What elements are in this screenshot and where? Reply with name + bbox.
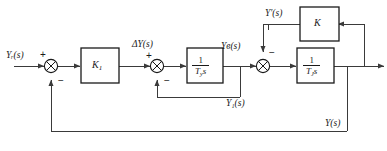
integrator-ty-denominator: Tys bbox=[192, 66, 209, 76]
block-integrator-ty-label: 1 Tys bbox=[192, 56, 209, 77]
integrator-tj-den-tail: s bbox=[314, 66, 318, 76]
block-integrator-tj-label: 1 TJs bbox=[303, 56, 320, 77]
label-mid-signal: Yв(s) bbox=[221, 42, 240, 52]
sum1-sign-left: + bbox=[40, 50, 46, 60]
label-input-signal: Yᵣ(s) bbox=[6, 51, 24, 61]
label-rate-feedback: Y′(s) bbox=[265, 9, 282, 19]
sum2-sign-bottom: − bbox=[164, 76, 170, 86]
integrator-ty-den-subscript: y bbox=[200, 70, 203, 77]
block-k-label: K bbox=[314, 18, 321, 28]
label-inner-feedback: Y₁(s) bbox=[226, 99, 245, 109]
control-block-diagram: Yᵣ(s) + − K1 ΔY(s) + − 1 Tys Yв(s) Y₁(s)… bbox=[0, 0, 387, 151]
integrator-ty-numerator: 1 bbox=[195, 56, 206, 65]
integrator-tj-den-subscript: J bbox=[311, 70, 314, 77]
integrator-tj-denominator: TJs bbox=[303, 66, 320, 76]
block-k1-label: K1 bbox=[92, 60, 102, 70]
sum2-sign-left: + bbox=[146, 51, 152, 61]
integrator-tj-numerator: 1 bbox=[306, 56, 317, 65]
block-k1-letter: K bbox=[92, 59, 99, 70]
sum1-sign-bottom: − bbox=[58, 76, 64, 86]
block-k1-subscript: 1 bbox=[99, 64, 103, 72]
label-delta-y: ΔY(s) bbox=[132, 40, 153, 50]
label-output-signal: Y(s) bbox=[325, 119, 340, 129]
sum3-sign-top: − bbox=[269, 48, 275, 58]
integrator-ty-den-tail: s bbox=[203, 66, 207, 76]
